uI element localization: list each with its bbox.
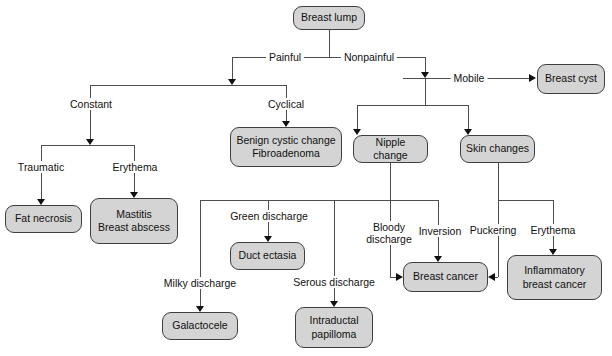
edge-label-green-discharge: Green discharge: [227, 210, 311, 222]
edge-label-nonpainful: Nonpainful: [341, 51, 397, 63]
edge-label-inversion: Inversion: [416, 225, 465, 237]
arrowhead-icon: [421, 72, 429, 78]
arrowhead-icon: [529, 74, 536, 82]
node-breast-cancer: Breast cancer: [403, 262, 488, 292]
edge-label-erythema-right: Erythema: [528, 224, 579, 236]
node-nipple-change: Nipple change: [353, 135, 428, 163]
edge-label-bloody-discharge: Bloody discharge: [363, 221, 415, 245]
edge-label-constant: Constant: [67, 98, 115, 110]
edge-label-mobile: Mobile: [451, 72, 488, 84]
arrowhead-icon: [228, 79, 236, 85]
node-mastitis-breast-abscess: Mastitis Breast abscess: [90, 198, 178, 244]
connector-constant-cyclical-bar: [90, 85, 287, 86]
node-duct-ectasia: Duct ectasia: [230, 242, 305, 270]
connector-skin-changes-elbow: [498, 200, 553, 201]
edge-label-puckering: Puckering: [467, 224, 520, 236]
node-skin-changes: Skin changes: [460, 135, 535, 163]
arrowhead-icon: [488, 273, 495, 281]
edge-label-serous-discharge: Serous discharge: [290, 276, 378, 288]
connector-discharge-bar: [200, 200, 438, 201]
arrowhead-icon: [396, 273, 403, 281]
connector-puckering-down: [498, 163, 499, 277]
connector-nonpainful-continue-down: [425, 78, 426, 105]
node-galactocele: Galactocele: [162, 312, 238, 340]
node-intraductal-papilloma: Intraductal papilloma: [295, 307, 373, 348]
connector-to-skin-changes: [468, 105, 469, 130]
node-benign-cystic-change-fibroadenoma: Benign cystic change Fibroadenoma: [230, 127, 342, 167]
node-inflammatory-breast-cancer: Inflammatory breast cancer: [507, 255, 602, 300]
connector-to-nipple-change: [357, 105, 358, 130]
edge-label-milky-discharge: Milky discharge: [161, 277, 239, 289]
node-breast-lump: Breast lump: [293, 6, 365, 30]
edge-label-traumatic: Traumatic: [15, 161, 67, 173]
arrowhead-icon: [86, 139, 94, 145]
connector-breast-lump-down: [329, 29, 330, 57]
node-breast-cyst: Breast cyst: [537, 64, 605, 94]
connector-nonpainful-down: [425, 57, 426, 73]
node-fat-necrosis: Fat necrosis: [5, 205, 82, 233]
connector-traumatic-erythema-bar: [42, 145, 134, 146]
flowchart-breast-lump: Painful Nonpainful Mobile Constant Cycli…: [0, 0, 612, 356]
edge-label-erythema-left: Erythema: [110, 161, 161, 173]
connector-constant-down: [90, 85, 91, 140]
connector-nipple-change-out: [390, 163, 391, 200]
connector-painful-down: [232, 57, 233, 80]
edge-label-cyclical: Cyclical: [265, 98, 307, 110]
connector-milky-down: [200, 200, 201, 307]
connector-nipple-skin-bar: [357, 105, 468, 106]
edge-label-painful: Painful: [266, 51, 304, 63]
